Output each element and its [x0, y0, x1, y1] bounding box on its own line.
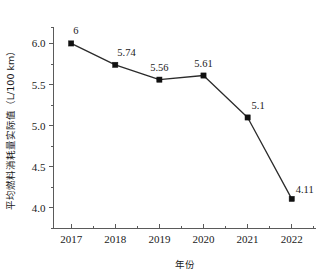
x-axis-title: 年份: [175, 259, 195, 270]
x-axis-tick-label: 2017: [60, 233, 83, 245]
data-point-marker: [289, 196, 294, 201]
x-axis-tick-label: 2019: [148, 233, 171, 245]
x-axis-tick-label: 2018: [104, 233, 127, 245]
chart-container: 4.04.55.05.56.0 201720182019202020212022…: [0, 0, 328, 274]
data-point-label: 6: [73, 25, 78, 36]
data-point-marker: [113, 62, 118, 67]
y-axis-tick-label: 4.0: [32, 202, 46, 214]
data-point-marker: [69, 41, 74, 46]
data-point-label: 5.1: [252, 100, 265, 111]
data-point-marker: [245, 115, 250, 120]
data-point-label: 5.61: [194, 58, 212, 69]
x-axis-tick-label: 2021: [237, 233, 259, 245]
data-point-marker: [157, 77, 162, 82]
x-axis-tick-label: 2020: [193, 233, 216, 245]
fuel-consumption-line-chart: 4.04.55.05.56.0 201720182019202020212022…: [0, 0, 328, 274]
y-axis-tick-label: 5.0: [32, 120, 46, 132]
y-axis-tick-label: 5.5: [32, 79, 46, 91]
data-point-marker: [201, 73, 206, 78]
y-axis-tick-label: 4.5: [32, 161, 46, 173]
y-axis-tick-label: 6.0: [32, 37, 46, 49]
data-point-label: 5.56: [150, 62, 168, 73]
data-point-label: 5.74: [117, 47, 136, 58]
x-axis-tick-label: 2022: [281, 233, 303, 245]
data-point-label: 4.11: [296, 184, 314, 195]
y-axis-title: 平均燃料消耗量实际值（L/100 km）: [5, 46, 16, 210]
